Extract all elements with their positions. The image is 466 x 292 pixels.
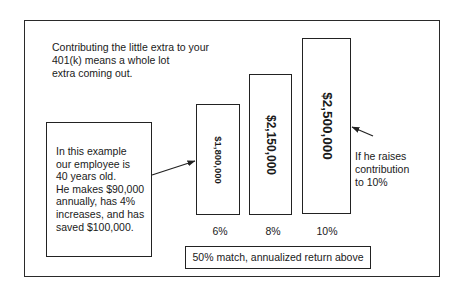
headline-line: 401(k) means a whole lot: [52, 54, 252, 67]
info-line: saved $100,000.: [56, 221, 151, 234]
side-note-line: If he raises: [355, 150, 435, 163]
category-label: 8%: [253, 225, 293, 237]
side-note: If he raises contribution to 10%: [355, 150, 435, 189]
bar-value-label: $2,150,000: [264, 114, 278, 174]
bar-value-label: $2,500,000: [319, 92, 334, 160]
headline-line: extra coming out.: [52, 67, 252, 80]
info-line: our employee is: [56, 158, 151, 171]
category-label: 6%: [200, 225, 240, 237]
bar-10-percent: $2,500,000: [302, 38, 351, 214]
info-line: increases, and has: [56, 208, 151, 221]
employee-info-box: In this example our employee is 40 years…: [46, 122, 152, 257]
bar-6-percent: $1,800,000: [196, 104, 240, 215]
caption-box: 50% match, annualized return above: [185, 246, 371, 269]
chart-headline: Contributing the little extra to your 40…: [52, 41, 252, 80]
side-note-line: to 10%: [355, 176, 435, 189]
bar-value-label: $1,800,000: [213, 136, 224, 184]
info-line: He makes $90,000: [56, 183, 151, 196]
info-line: 40 years old.: [56, 170, 151, 183]
category-label: 10%: [307, 225, 347, 237]
bar-8-percent: $2,150,000: [249, 74, 292, 215]
info-line: annually, has 4%: [56, 195, 151, 208]
info-line: In this example: [56, 145, 151, 158]
headline-line: Contributing the little extra to your: [52, 41, 252, 54]
side-note-line: contribution: [355, 163, 435, 176]
